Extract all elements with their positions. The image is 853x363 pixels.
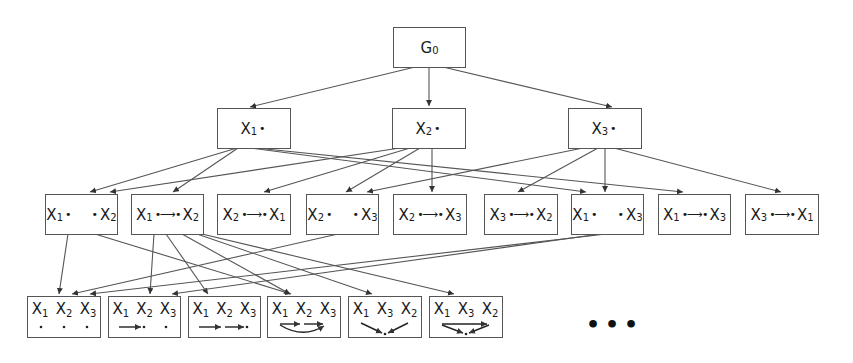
graph-single-edge-icon [109, 297, 182, 339]
var-label: X [797, 206, 807, 224]
node-dot-icon: • [65, 208, 72, 221]
level3-node-empty-graph: X1 X2 X3 [27, 296, 101, 338]
var-subscript: 3 [500, 212, 506, 223]
var-label: X [415, 120, 425, 138]
directed-edge-arrow-icon: •⟶• [241, 208, 267, 221]
edge-m2-b2 [150, 234, 154, 294]
root-node-g0: G0 [393, 27, 466, 68]
directed-edge-arrow-icon: •⟶• [682, 208, 708, 221]
directed-edge-arrow-icon: •⟶• [508, 208, 534, 221]
var-subscript: 2 [318, 212, 324, 223]
level2-node-x1-to-x2: X1•⟶•X2 [131, 194, 204, 235]
level1-node-x1: X1• [217, 108, 291, 149]
level2-node-x3-to-x1: X3•⟶•X1 [745, 194, 819, 235]
var-subscript: 1 [146, 212, 152, 223]
edge-x3-m4 [367, 148, 583, 192]
level3-node-collider: X1 X3 X2 [348, 296, 422, 338]
var-label: X [46, 206, 56, 224]
var-subscript: 2 [193, 212, 199, 223]
var-subscript: 1 [583, 212, 589, 223]
edge-m2-b3 [166, 234, 208, 294]
var-subscript: 3 [720, 212, 726, 223]
edge-x3-m9 [614, 148, 781, 192]
edge-x2-m3 [264, 148, 410, 192]
var-label: X [572, 206, 582, 224]
directed-edge-arrow-icon: •⟶• [417, 208, 443, 221]
var-label: X [182, 206, 192, 224]
var-label: X [709, 206, 719, 224]
edge-g0-x1 [250, 67, 415, 107]
var-label: X [750, 206, 760, 224]
graph-collider-icon [349, 297, 423, 339]
var-subscript: 2 [426, 126, 432, 137]
var-subscript: 2 [546, 212, 552, 223]
var-label: X [269, 206, 279, 224]
graph-collider-plus-edge-icon [430, 297, 504, 339]
edge-x3-m6 [518, 148, 598, 192]
edge-m7-b1 [90, 234, 606, 294]
level3-node-chain: X1 X2 X3 [188, 296, 261, 338]
level2-node-x2-to-x3: X2•⟶•X3 [393, 194, 467, 235]
var-subscript: 3 [761, 212, 767, 223]
edge-x1-m7 [250, 148, 586, 192]
level3-node-x1-to-x2: X1 X2 X3 [108, 296, 181, 338]
var-subscript: 3 [602, 126, 608, 137]
root-subscript: 0 [432, 45, 438, 56]
level2-node-x1-to-x3: X1•⟶•X3 [658, 194, 731, 235]
var-subscript: 1 [251, 126, 257, 137]
node-dot-icon: • [92, 208, 99, 221]
root-label: G [421, 39, 433, 57]
var-label: X [222, 206, 232, 224]
level1-node-x2: X2• [392, 108, 466, 149]
level1-node-x3: X3• [568, 108, 642, 149]
level2-node-x2-x3-unconnected: X2••X3 [306, 194, 379, 235]
var-subscript: 2 [409, 212, 415, 223]
var-label: X [398, 206, 408, 224]
graph-fully-connected-icon [268, 297, 342, 339]
var-label: X [100, 206, 110, 224]
level3-node-chain-with-shortcut: X1 X2 X3 [267, 296, 341, 338]
node-dot-icon: • [610, 122, 617, 135]
var-label: X [240, 120, 250, 138]
directed-edge-arrow-icon: •⟶• [769, 208, 795, 221]
var-subscript: 3 [371, 212, 377, 223]
edge-x1-m1 [90, 148, 237, 192]
edge-x1-m8 [256, 148, 683, 192]
var-subscript: 3 [636, 212, 642, 223]
var-label: X [591, 120, 601, 138]
level2-node-x1-x2-unconnected: X1••X2 [45, 194, 118, 235]
edge-g0-x3 [443, 67, 612, 107]
var-subscript: 1 [279, 212, 285, 223]
ellipsis-more-graphs: ••• [586, 312, 643, 337]
level2-node-x1-x3-unconnected: X1••X3 [571, 194, 644, 235]
var-label: X [307, 206, 317, 224]
node-dot-icon: • [618, 208, 625, 221]
var-subscript: 2 [233, 212, 239, 223]
var-label: X [626, 206, 636, 224]
node-dot-icon: • [259, 122, 266, 135]
edge-x1-m2 [173, 148, 238, 192]
edge-m1-b1 [59, 234, 68, 294]
node-dot-icon: • [326, 208, 333, 221]
edge-m4-b1 [72, 234, 338, 294]
var-label: X [361, 206, 371, 224]
var-label: X [536, 206, 546, 224]
var-subscript: 1 [807, 212, 813, 223]
var-label: X [663, 206, 673, 224]
level3-node-collider-with-edge: X1 X3 X2 [429, 296, 503, 338]
edge-m1-b4 [95, 234, 291, 294]
graph-chain-icon [189, 297, 262, 339]
var-subscript: 1 [57, 212, 63, 223]
node-dot-icon: • [353, 208, 360, 221]
var-label: X [489, 206, 499, 224]
var-subscript: 3 [455, 212, 461, 223]
level2-node-x3-to-x2: X3•⟶•X2 [484, 194, 558, 235]
directed-edge-arrow-icon: •⟶• [155, 208, 181, 221]
node-dot-icon: • [434, 122, 441, 135]
node-dot-icon: • [591, 208, 598, 221]
var-subscript: 1 [673, 212, 679, 223]
var-label: X [445, 206, 455, 224]
graph-empty-icon [28, 297, 102, 339]
level2-node-x2-to-x1: X2•⟶•X1 [217, 194, 291, 235]
var-label: X [136, 206, 146, 224]
